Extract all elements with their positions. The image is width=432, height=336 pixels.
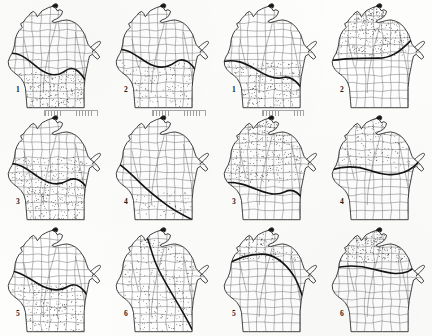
map-panel-6-12[interactable]: 6 <box>324 224 432 336</box>
state-fill <box>332 6 424 107</box>
panel-number-label: 1 <box>16 86 20 94</box>
map-panel-4-8[interactable]: 4 <box>324 112 432 224</box>
panel-number-label: 6 <box>124 310 128 318</box>
wisconsin-map-panel-r2c3 <box>216 112 324 224</box>
wisconsin-map-panel-r1c4 <box>324 0 432 112</box>
panel-number-label: 2 <box>124 86 128 94</box>
wisconsin-map-panel-r2c4 <box>324 112 432 224</box>
wisconsin-map-panel-r2c1 <box>0 112 108 224</box>
wisconsin-map-panel-r3c3 <box>216 224 324 336</box>
wisconsin-map-panel-r1c1 <box>0 0 108 112</box>
map-panel-5-9[interactable]: 5 <box>0 224 108 336</box>
state-fill <box>8 118 100 219</box>
state-fill <box>116 118 208 219</box>
panel-number-label: 5 <box>232 310 236 318</box>
scale-ruler-fragment <box>152 110 206 116</box>
state-fill <box>8 6 100 107</box>
scale-ruler-fragment <box>44 110 98 116</box>
map-panel-grid: 121234345656 <box>0 0 432 336</box>
state-fill <box>224 118 316 219</box>
map-panel-2-4[interactable]: 2 <box>324 0 432 112</box>
state-fill <box>8 230 100 331</box>
figure-plate-page: 121234345656 <box>0 0 432 336</box>
panel-number-label: 4 <box>124 198 128 206</box>
state-fill <box>116 6 208 107</box>
panel-number-label: 1 <box>232 86 236 94</box>
map-panel-1-3[interactable]: 1 <box>216 0 324 112</box>
map-panel-4-6[interactable]: 4 <box>108 112 216 224</box>
panel-number-label: 6 <box>340 310 344 318</box>
wisconsin-map-panel-r3c4 <box>324 224 432 336</box>
map-panel-1-1[interactable]: 1 <box>0 0 108 112</box>
panel-number-label: 3 <box>232 198 236 206</box>
scale-ruler-fragment <box>262 110 304 116</box>
panel-number-label: 3 <box>16 198 20 206</box>
panel-number-label: 2 <box>340 86 344 94</box>
map-panel-3-7[interactable]: 3 <box>216 112 324 224</box>
wisconsin-map-panel-r1c3 <box>216 0 324 112</box>
wisconsin-map-panel-r2c2 <box>108 112 216 224</box>
panel-number-label: 5 <box>16 310 20 318</box>
wisconsin-map-panel-r1c2 <box>108 0 216 112</box>
map-panel-6-10[interactable]: 6 <box>108 224 216 336</box>
state-fill <box>332 230 424 331</box>
map-panel-2-2[interactable]: 2 <box>108 0 216 112</box>
map-panel-3-5[interactable]: 3 <box>0 112 108 224</box>
wisconsin-map-panel-r3c1 <box>0 224 108 336</box>
map-panel-5-11[interactable]: 5 <box>216 224 324 336</box>
state-fill <box>224 6 316 107</box>
wisconsin-map-panel-r3c2 <box>108 224 216 336</box>
state-fill <box>224 230 316 331</box>
panel-number-label: 4 <box>340 198 344 206</box>
